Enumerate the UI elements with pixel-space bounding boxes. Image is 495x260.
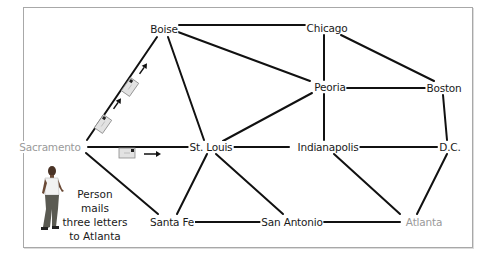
edge-stlouis-sanantonio — [216, 154, 283, 214]
diagram-caption: Person mails three letters to Atlanta — [62, 187, 128, 243]
edge-stlouis-santafe — [177, 154, 207, 214]
node-santa-fe: Santa Fe — [149, 216, 195, 228]
node-atlanta: Atlanta — [405, 216, 443, 228]
edge-indianapolis-atlanta — [334, 154, 400, 214]
arrow-icon — [144, 151, 161, 157]
node-boston: Boston — [425, 82, 462, 94]
caption-line-3: to Atlanta — [62, 229, 128, 243]
node-chicago: Chicago — [306, 22, 349, 34]
edge-boise-stlouis — [168, 37, 204, 140]
edge-peoria-stlouis — [223, 93, 312, 141]
caption-line-1: Person mails — [62, 187, 128, 215]
letter-envelope-3 — [119, 148, 135, 158]
letter-envelope-2 — [121, 78, 138, 97]
letter-envelope-1 — [94, 115, 111, 134]
node-dc: D.C. — [438, 141, 461, 153]
node-san-antonio: San Antonio — [260, 216, 323, 228]
edge-dc-atlanta — [417, 154, 447, 214]
node-boise: Boise — [149, 23, 178, 35]
node-st-louis: St. Louis — [189, 141, 234, 153]
node-peoria: Peoria — [313, 81, 346, 93]
edge-chicago-boston — [341, 35, 434, 81]
node-indianapolis: Indianapolis — [297, 141, 360, 153]
caption-line-2: three letters — [62, 215, 128, 229]
edge-boise-peoria — [178, 32, 310, 81]
node-sacramento: Sacramento — [18, 141, 82, 153]
edge-boston-dc — [443, 95, 447, 140]
arrow-icon — [111, 97, 123, 111]
